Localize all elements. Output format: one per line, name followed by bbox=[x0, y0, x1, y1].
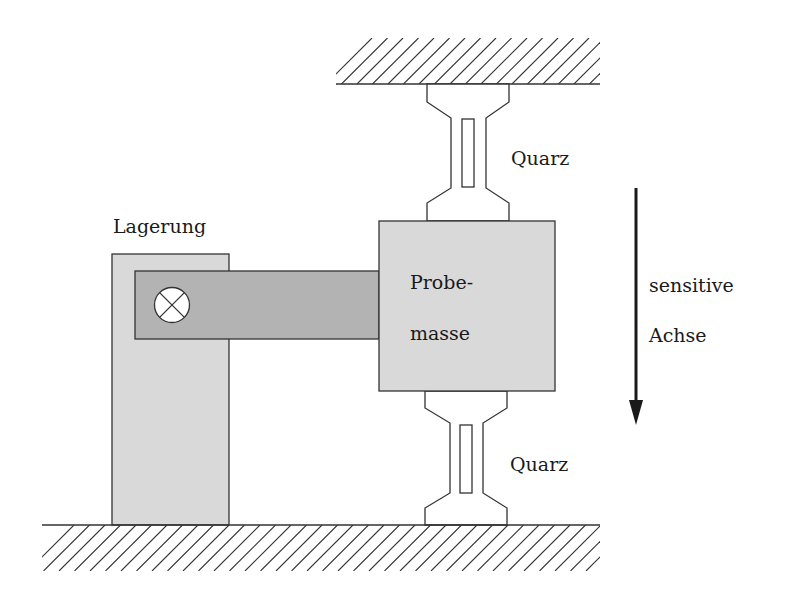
sensitive-axis-label-line1: sensitive bbox=[649, 274, 734, 296]
quartz-upper bbox=[427, 84, 509, 221]
ceiling-hatch bbox=[326, 38, 636, 84]
ceiling-ground bbox=[326, 38, 636, 84]
proof-mass-label-line2: masse bbox=[410, 322, 470, 344]
pivot-hinge-icon bbox=[155, 288, 190, 323]
quartz-upper-label: Quarz bbox=[511, 147, 569, 169]
proof-mass-block bbox=[379, 221, 555, 391]
diagram-canvas: Lagerung Probe- masse Quarz Quarz sensit… bbox=[0, 0, 789, 604]
floor-ground bbox=[28, 525, 632, 571]
quartz-lower bbox=[425, 391, 507, 525]
quartz-lower-slot bbox=[460, 425, 472, 493]
quartz-lower-label: Quarz bbox=[510, 453, 568, 475]
proof-mass-label-line1: Probe- bbox=[410, 271, 473, 293]
sensitive-axis-label-line2: Achse bbox=[648, 324, 707, 346]
quartz-upper-slot bbox=[462, 119, 474, 187]
sensitive-axis-arrow-icon bbox=[629, 188, 643, 425]
bearing-label: Lagerung bbox=[113, 215, 206, 237]
floor-hatch bbox=[28, 525, 632, 571]
